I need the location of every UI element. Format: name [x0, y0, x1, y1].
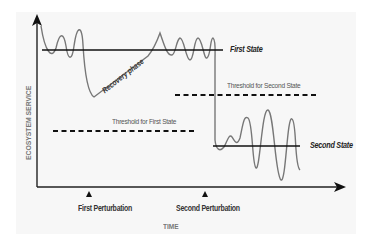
first-perturbation-label: First Perturbation	[78, 203, 132, 213]
second-perturbation-marker-icon	[202, 191, 208, 197]
y-axis-label: ECOSYSTEM SERVICE	[24, 86, 33, 160]
first-state-label: First State	[230, 44, 263, 54]
second-perturbation-label: Second Perturbation	[176, 203, 240, 213]
x-axis-label: TIME	[163, 222, 179, 231]
first-perturbation-marker-icon	[86, 191, 92, 197]
second-threshold-label: Threshold for Second State	[227, 81, 300, 90]
second-state-label: Second State	[310, 140, 353, 150]
first-threshold-label: Threshold for First State	[112, 117, 176, 126]
